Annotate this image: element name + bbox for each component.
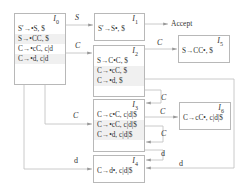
edge-label-i0-i2: C	[75, 42, 80, 50]
lr-item: C→c•C, c|d|$	[94, 110, 144, 120]
state-title: I1	[95, 14, 144, 24]
edge-label-i2-i3: C	[161, 94, 166, 102]
lr-item: C→cC•, c|d|$	[180, 113, 230, 123]
state-i2: I2 S→C•C, $ C→•cC, $ C→•d, $	[93, 45, 145, 97]
lr-item: S→•CC, $	[15, 34, 65, 44]
edge-label-i3-i6: C	[160, 108, 165, 116]
state-title: I4	[94, 156, 144, 166]
edge-label-i0-i3: C	[73, 112, 78, 120]
state-i5: I5 S→CC•, $	[178, 35, 230, 63]
lr-item: S→CC•, $	[179, 46, 229, 56]
state-i6: I6 C→cC•, c|d|$	[179, 102, 231, 130]
state-title: I0	[15, 14, 65, 24]
lr-item: C→•cC, c|d|$	[94, 120, 144, 130]
state-title: I6	[180, 103, 230, 113]
lr-item: C→•cC, $	[94, 66, 144, 76]
edge-label-i3-self: C	[161, 130, 166, 138]
lr-item: S→C•C, $	[94, 56, 144, 66]
state-i0: I0 S′→•S, $ S→•CC, $ C→•cC, c|d C→•d, c|…	[14, 13, 66, 85]
lr-item: C→•d, c|d	[15, 54, 65, 64]
lr-item: C→•cC, c|d	[15, 44, 65, 54]
lr-item: S′→S•, $	[95, 24, 144, 34]
state-i4: I4 C→d•, c|d|$	[93, 155, 145, 183]
state-title: I3	[94, 100, 144, 110]
state-i1: I1 S′→S•, $	[94, 13, 145, 41]
accept-label: Accept	[171, 20, 192, 28]
edge-label-i2-i4: d	[179, 160, 183, 168]
state-title: I2	[94, 46, 144, 56]
state-title: I5	[179, 36, 229, 46]
edge-label-i2-i5: C	[157, 39, 162, 47]
edge-label-i0-i4: d	[74, 157, 78, 165]
lr-item: C→•d, c|d|$	[94, 130, 144, 140]
lr-item: C→d•, c|d|$	[94, 166, 144, 176]
lr-item: C→•d, $	[94, 76, 144, 86]
lr-item: S′→•S, $	[15, 24, 65, 34]
edge-label-i0-i1: S	[75, 14, 79, 22]
edge-label-i3-i4: d	[161, 150, 165, 158]
state-i3: I3 C→c•C, c|d|$ C→•cC, c|d|$ C→•d, c|d|$	[93, 99, 145, 152]
